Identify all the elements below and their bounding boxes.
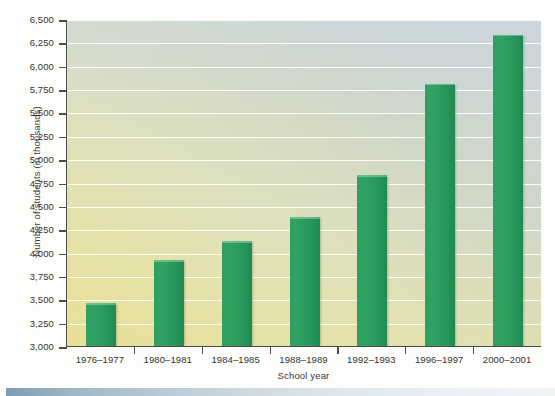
bar [425, 84, 455, 347]
y-tick-mark [59, 43, 67, 45]
gridline [67, 20, 541, 21]
y-tick-label: 5,000 [6, 154, 54, 165]
y-tick-mark [59, 160, 67, 162]
bottom-decorative-strip [6, 388, 555, 396]
x-tick-mark [134, 347, 135, 354]
gridline [67, 207, 541, 208]
y-tick-mark [59, 67, 67, 69]
y-tick-label: 4,500 [6, 201, 54, 212]
gridline [67, 160, 541, 161]
x-axis-title: School year [66, 370, 541, 381]
x-tick-mark [202, 347, 203, 354]
y-tick-label: 6,250 [6, 37, 54, 48]
y-tick-mark [59, 90, 67, 92]
y-tick-mark [59, 137, 67, 139]
gridline [67, 43, 541, 44]
y-tick-label: 6,000 [6, 61, 54, 72]
y-tick-mark [59, 113, 67, 115]
gridline [67, 90, 541, 91]
x-tick-label: 2000–2001 [467, 354, 547, 365]
y-tick-label: 6,500 [6, 14, 54, 25]
y-tick-label: 5,500 [6, 107, 54, 118]
y-tick-mark [59, 277, 67, 279]
y-tick-mark [59, 207, 67, 209]
x-tick-mark [473, 347, 474, 354]
y-tick-label: 3,750 [6, 271, 54, 282]
y-tick-mark [59, 20, 67, 22]
x-tick-mark [270, 347, 271, 354]
y-tick-mark [59, 184, 67, 186]
plot-area [66, 20, 541, 347]
y-tick-label: 4,250 [6, 224, 54, 235]
gridline [67, 137, 541, 138]
y-tick-mark [59, 254, 67, 256]
gridline [67, 184, 541, 185]
y-tick-label: 5,750 [6, 84, 54, 95]
y-tick-label: 4,750 [6, 178, 54, 189]
bar [222, 241, 252, 347]
y-tick-mark [59, 347, 67, 349]
y-tick-label: 3,000 [6, 341, 54, 352]
bar-chart: Number of students (in thousands) 3,0003… [0, 0, 555, 396]
y-tick-mark [59, 300, 67, 302]
bar [493, 35, 523, 347]
y-tick-label: 5,250 [6, 131, 54, 142]
x-tick-mark [337, 347, 338, 354]
y-tick-label: 4,000 [6, 248, 54, 259]
bar [86, 303, 116, 347]
y-tick-mark [59, 230, 67, 232]
bar [357, 175, 387, 347]
bar [154, 260, 184, 347]
y-tick-label: 3,250 [6, 318, 54, 329]
bar [290, 217, 320, 347]
x-tick-mark [405, 347, 406, 354]
gridline [67, 113, 541, 114]
gridline [67, 67, 541, 68]
y-tick-label: 3,500 [6, 294, 54, 305]
y-tick-mark [59, 324, 67, 326]
